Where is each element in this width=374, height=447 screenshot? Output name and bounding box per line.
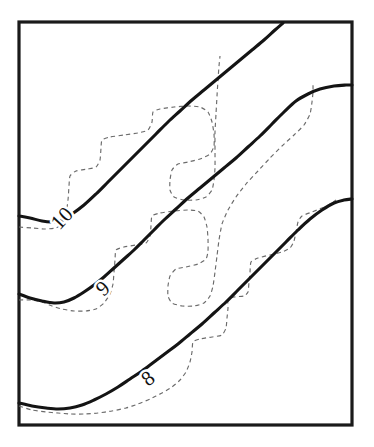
contour-label-8: 88	[136, 365, 159, 391]
contour-path-contour-9-dashed	[19, 84, 313, 311]
contour-path-contour-8-solid	[19, 199, 352, 409]
contour-label-10: 1010	[46, 202, 79, 234]
contour-figure: 10109988	[0, 0, 374, 447]
contour-path-contour-10-solid	[19, 23, 283, 222]
contour-label-text: 10	[46, 202, 79, 234]
contour-label-text: 8	[136, 365, 159, 391]
contour-plot-canvas: 10109988	[0, 0, 374, 447]
contour-label-layer: 10109988	[46, 202, 160, 391]
contour-path-contour-9-solid	[19, 85, 352, 303]
contour-path-contour-10-dashed	[19, 56, 220, 229]
contour-path-contour-8-dashed	[19, 200, 336, 414]
